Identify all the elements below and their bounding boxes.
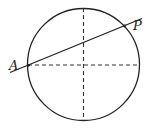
secant-line-AP — [10, 19, 142, 73]
circle-diagram — [0, 0, 146, 129]
point-A — [27, 64, 30, 67]
point-P — [123, 25, 126, 28]
label-A: A — [9, 59, 18, 72]
diagram-canvas: A P — [0, 0, 146, 129]
label-P: P — [133, 19, 142, 32]
